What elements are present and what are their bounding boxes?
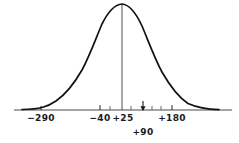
tick-label-plus180: +180 [158, 114, 186, 123]
tick-label-minus290: −290 [27, 114, 55, 123]
tick-label-minus40: −40 [90, 114, 111, 123]
normal-distribution-curve [22, 4, 219, 110]
annotation-label-plus90: +90 [133, 128, 154, 137]
bell-curve-chart: −290 −40 +25 +180 +90 [0, 0, 239, 143]
tick-label-plus25: +25 [113, 114, 134, 123]
